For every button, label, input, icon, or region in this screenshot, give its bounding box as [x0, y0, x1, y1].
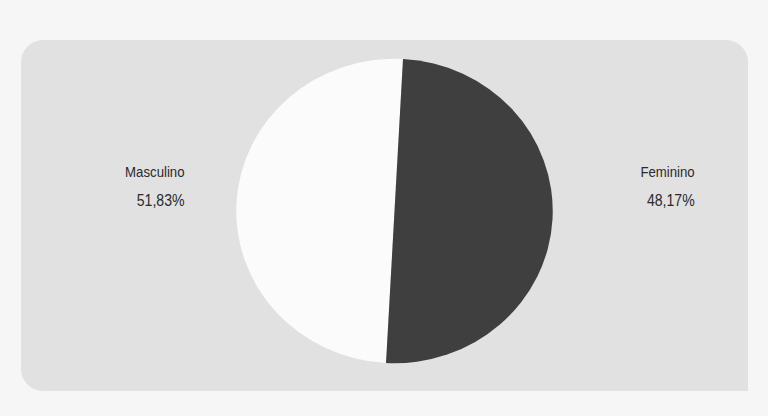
label-masculino-percent: 51,83%	[126, 191, 185, 211]
pie-slice-feminino	[386, 59, 553, 363]
label-masculino-name: Masculino	[126, 162, 185, 182]
pie-slice-masculino	[236, 59, 403, 363]
label-feminino-name: Feminino	[641, 162, 695, 182]
label-feminino: Feminino 48,17%	[641, 162, 695, 211]
label-masculino: Masculino 51,83%	[126, 162, 185, 211]
label-feminino-percent: 48,17%	[641, 191, 695, 211]
